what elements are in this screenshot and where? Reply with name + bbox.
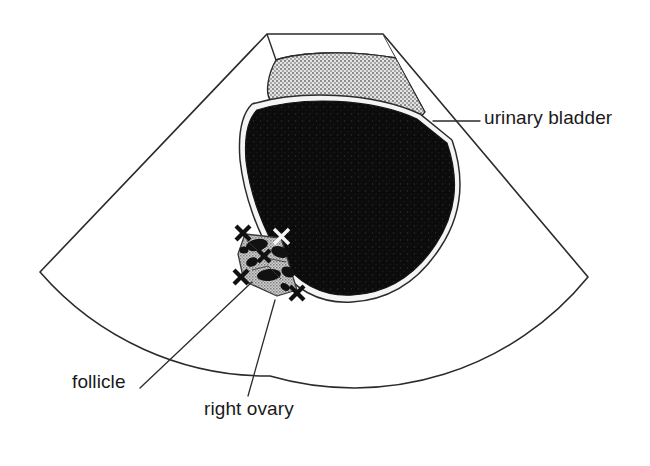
label-urinary-bladder: urinary bladder	[484, 107, 612, 128]
ultrasound-scan-graphic: Transabdominal pelvic ultrasound scan di…	[0, 0, 650, 466]
label-right-ovary: right ovary	[204, 398, 294, 419]
ultrasound-figure: Transabdominal pelvic ultrasound scan di…	[0, 0, 650, 466]
follicle-6	[240, 247, 249, 254]
label-follicle: follicle	[72, 371, 126, 392]
